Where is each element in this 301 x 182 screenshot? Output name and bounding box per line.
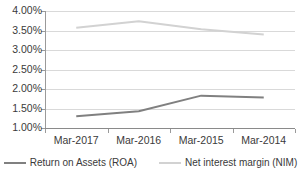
y-axis-label: 1.00%	[0, 122, 42, 133]
x-axis-tick	[233, 129, 234, 133]
x-axis-label: Mar-2016	[108, 134, 171, 146]
chart-legend: Return on Assets (ROA)Net interest margi…	[0, 157, 301, 169]
y-axis-label: 2.00%	[0, 83, 42, 94]
x-axis-label: Mar-2014	[233, 134, 296, 146]
series-layer	[45, 11, 295, 128]
y-axis-label: 3.50%	[0, 25, 42, 36]
x-axis-tick	[295, 129, 296, 133]
legend-swatch	[4, 162, 26, 164]
x-axis-tick	[108, 129, 109, 133]
y-axis-label: 2.50%	[0, 64, 42, 75]
y-axis-label: 1.50%	[0, 103, 42, 114]
legend-label: Return on Assets (ROA)	[30, 157, 137, 169]
y-axis-label: 3.00%	[0, 44, 42, 55]
x-axis-tick	[45, 129, 46, 133]
x-axis-label: Mar-2015	[170, 134, 233, 146]
legend-label: Net interest margin (NIM)	[185, 157, 297, 169]
y-axis-label: 4.00%	[0, 5, 42, 16]
legend-item[interactable]: Net interest margin (NIM)	[159, 157, 297, 169]
legend-item[interactable]: Return on Assets (ROA)	[4, 157, 137, 169]
plot-area	[45, 11, 295, 128]
series-line	[76, 21, 264, 34]
line-chart: 4.00%3.50%3.00%2.50%2.00%1.50%1.00% Mar-…	[0, 0, 301, 182]
x-axis-tick	[170, 129, 171, 133]
x-axis-label: Mar-2017	[45, 134, 108, 146]
series-line	[76, 96, 264, 117]
legend-swatch	[159, 162, 181, 164]
y-axis-line	[45, 11, 46, 129]
